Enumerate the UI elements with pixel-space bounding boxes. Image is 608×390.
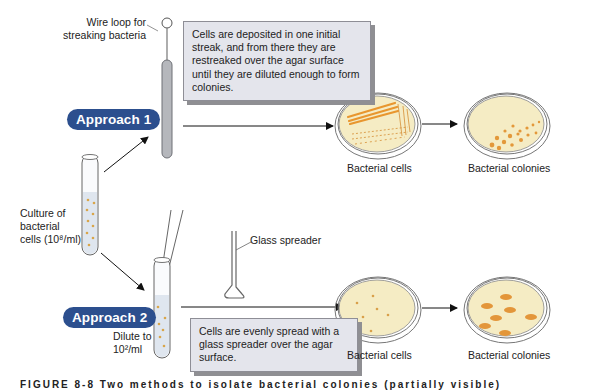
plate-2b-label: Bacterial colonies (468, 349, 550, 362)
dilute-label-line2: 10²/ml (113, 343, 152, 356)
plate-2a-label: Bacterial cells (347, 349, 412, 362)
approach-1-note: Cells are deposited in one initial strea… (183, 21, 371, 101)
dilution-tube-icon (154, 210, 183, 358)
large-colony-plate-icon (464, 277, 550, 343)
wire-loop-label: Wire loop for streaking bacteria (50, 16, 146, 42)
colony-plate-icon (464, 93, 550, 159)
culture-label: Culture of bacterial cells (10⁸/ml) (20, 207, 81, 246)
culture-label-line3: cells (10⁸/ml) (20, 233, 81, 246)
approach-2-badge: Approach 2 (63, 307, 156, 328)
wire-loop-label-line2: streaking bacteria (50, 29, 146, 42)
culture-label-line2: bacterial (20, 220, 81, 233)
figure-caption: FIGURE 8-8 Two methods to isolate bacter… (20, 379, 501, 390)
streak-plate-icon (335, 93, 421, 159)
approach-2-note: Cells are evenly spread with a glass spr… (190, 318, 358, 372)
wire-loop-icon (147, 18, 172, 158)
glass-spreader-label: Glass spreader (250, 234, 321, 247)
approach-1-badge: Approach 1 (67, 109, 160, 130)
plate-1b-label: Bacterial colonies (468, 162, 550, 175)
wire-loop-label-line1: Wire loop for (50, 16, 146, 29)
culture-tube-icon (82, 155, 98, 256)
culture-label-line1: Culture of (20, 207, 81, 220)
plate-1a-label: Bacterial cells (347, 162, 412, 175)
glass-spreader-icon (225, 231, 251, 298)
dilute-label: Dilute to 10²/ml (113, 330, 152, 356)
dilute-label-line1: Dilute to (113, 330, 152, 343)
